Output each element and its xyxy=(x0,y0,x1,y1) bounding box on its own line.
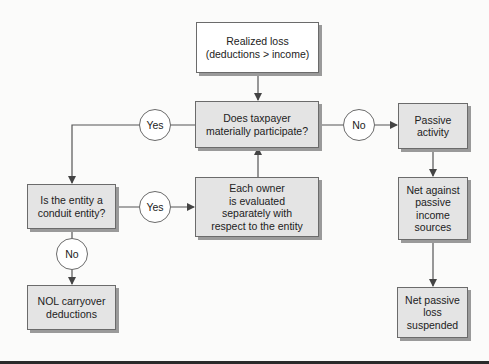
passive-activity-line2: activity xyxy=(415,126,452,139)
each-owner-box: Each owner is evaluated separately with … xyxy=(195,177,319,237)
nol-carryover-line2: deductions xyxy=(38,308,106,321)
net-passive-loss-suspended-box: Net passive loss suspended xyxy=(397,287,468,338)
net-against-line1: Net against xyxy=(406,184,459,197)
each-owner-line3: separately with xyxy=(211,207,303,220)
net-passive-loss-line1: Net passive xyxy=(405,294,460,307)
net-passive-loss-line2: loss xyxy=(405,306,460,319)
each-owner-line1: Each owner xyxy=(211,182,303,195)
material-participation-decision-box: Does taxpayer materially participate? xyxy=(195,101,319,148)
nol-carryover-line1: NOL carryover xyxy=(38,295,106,308)
passive-activity-box: Passive activity xyxy=(398,103,468,149)
passive-activity-line1: Passive xyxy=(415,114,452,127)
conduit-entity-line2: conduit entity? xyxy=(38,207,106,220)
conduit-no-circle: No xyxy=(56,238,88,270)
realized-loss-line1: Realized loss xyxy=(206,35,310,48)
net-against-line4: sources xyxy=(406,221,459,234)
nol-carryover-box: NOL carryover deductions xyxy=(27,285,116,330)
conduit-entity-decision-box: Is the entity a conduit entity? xyxy=(27,184,116,229)
material-participation-line1: Does taxpayer xyxy=(206,112,308,125)
net-against-passive-income-box: Net against passive income sources xyxy=(398,177,468,240)
realized-loss-box: Realized loss (deductions > income) xyxy=(196,22,319,73)
conduit-yes-circle: Yes xyxy=(139,191,171,223)
each-owner-line2: is evaluated xyxy=(211,195,303,208)
participate-no-label: No xyxy=(352,119,365,131)
realized-loss-line2: (deductions > income) xyxy=(206,48,310,61)
participate-yes-label: Yes xyxy=(146,119,163,131)
net-against-line2: passive xyxy=(406,196,459,209)
each-owner-line4: respect to the entity xyxy=(211,220,303,233)
material-participation-line2: materially participate? xyxy=(206,125,308,138)
net-against-line3: income xyxy=(406,209,459,222)
participate-no-circle: No xyxy=(343,109,375,141)
conduit-yes-label: Yes xyxy=(146,201,163,213)
conduit-entity-line1: Is the entity a xyxy=(38,194,106,207)
conduit-no-label: No xyxy=(65,248,78,260)
net-passive-loss-line3: suspended xyxy=(405,319,460,332)
participate-yes-circle: Yes xyxy=(139,109,171,141)
